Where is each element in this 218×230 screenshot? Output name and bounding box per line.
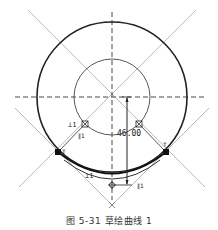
dimension-arrow-bottom-icon bbox=[126, 180, 129, 185]
tangent-label-left: T bbox=[62, 148, 66, 155]
dimension-arrow-top-icon bbox=[126, 97, 129, 102]
diagonal-line-ne-sw bbox=[19, 10, 196, 187]
bottom-center-point[interactable] bbox=[108, 181, 116, 189]
radial-segment-right bbox=[139, 124, 166, 152]
apex-marker bbox=[109, 202, 115, 208]
dimension-value[interactable]: 46.00 bbox=[117, 129, 141, 138]
tangent-point-right-icon[interactable] bbox=[163, 149, 169, 155]
constraint-perpendicular-lower: ⊥1 bbox=[85, 172, 93, 180]
constraint-perpendicular-upper: ⊥1 bbox=[68, 121, 76, 129]
tangent-point-left-icon[interactable] bbox=[55, 149, 61, 155]
tangent-label-right: T bbox=[163, 141, 167, 148]
constraint-parallel-upper: ∥1 bbox=[78, 132, 85, 140]
sketch-diagram: 46.00 T T ⊥1 ∥1 ⊥1 ∥1 bbox=[0, 0, 218, 230]
diagonal-line-nw-se bbox=[28, 10, 205, 187]
figure-caption: 图 5-31 草绘曲线 1 bbox=[0, 214, 218, 227]
sketch-arc-main bbox=[58, 152, 166, 174]
constraint-parallel-lower: ∥1 bbox=[137, 182, 144, 190]
